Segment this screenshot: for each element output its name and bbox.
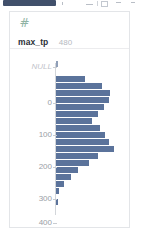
axis-tick-mark (53, 67, 57, 68)
histogram-bar[interactable] (56, 97, 109, 103)
minimize-icon[interactable] (86, 4, 93, 5)
card-header: # max_tp 480 (10, 12, 129, 48)
browser-tab[interactable] (3, 0, 56, 6)
histogram-bar[interactable] (56, 125, 100, 131)
field-count-label: 480 (59, 38, 72, 47)
histogram-bar[interactable] (56, 153, 98, 159)
axis-tick-mark (53, 223, 57, 224)
histogram-bar[interactable] (56, 146, 114, 152)
histogram-bar[interactable] (56, 188, 59, 194)
histogram-bar[interactable] (56, 132, 105, 138)
axis-tick-label: NULL (18, 62, 52, 71)
histogram-chart[interactable]: NULL0100200300400 (10, 49, 129, 228)
axis-tick-mark (53, 199, 57, 200)
field-summary-row: max_tp 480 (18, 31, 72, 49)
histogram-bar[interactable] (56, 160, 89, 166)
histogram-bar[interactable] (56, 76, 85, 82)
histogram-bar[interactable] (56, 139, 109, 145)
axis-tick-mark (53, 167, 57, 168)
axis-tick-label: 200 (18, 162, 52, 171)
axis-tick-label: 100 (18, 130, 52, 139)
axis-tick-label: 400 (18, 218, 52, 227)
axis-tick-mark (53, 103, 57, 104)
histogram-bar[interactable] (56, 111, 98, 117)
axis-tick-label: 0 (18, 98, 52, 107)
field-profile-card[interactable]: # max_tp 480 NULL0100200300400 (9, 11, 130, 228)
histogram-bar[interactable] (56, 104, 104, 110)
histogram-bar[interactable] (56, 181, 64, 187)
histogram-bar[interactable] (56, 83, 102, 89)
window-chrome-strip (0, 0, 147, 9)
field-name-label: max_tp (18, 37, 48, 47)
toolbar-divider (97, 1, 98, 6)
histogram-bar[interactable] (56, 174, 71, 180)
maximize-icon[interactable] (101, 1, 108, 7)
histogram-bar[interactable] (56, 90, 110, 96)
histogram-bar[interactable] (56, 118, 92, 124)
histogram-bar[interactable] (56, 167, 78, 173)
axis-tick-mark (53, 135, 57, 136)
toolbar-marker-icon (62, 2, 63, 5)
axis-tick-labels: NULL0100200300400 (10, 49, 52, 228)
overflow-menu-icon[interactable] (131, 2, 135, 3)
histogram-bars (56, 49, 129, 228)
hash-icon: # (18, 17, 31, 30)
close-icon[interactable] (116, 2, 121, 3)
axis-tick-label: 300 (18, 194, 52, 203)
